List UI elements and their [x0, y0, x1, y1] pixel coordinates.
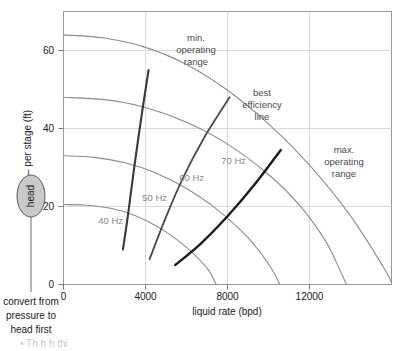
xtick-label-4000: 4000 — [134, 291, 157, 302]
chart-svg: 0 4000 8000 12000 0 20 40 60 liquid rate… — [0, 0, 402, 351]
xtick-label-8000: 8000 — [216, 291, 239, 302]
max-op-line-3: range — [332, 168, 356, 179]
convert-note: convert from pressure to head first — [3, 296, 59, 335]
freq-label-40-hz: 40 Hz — [98, 215, 123, 226]
y-tick-labels: 0 20 40 60 — [43, 45, 55, 290]
freq-label-60-hz: 60 Hz — [179, 172, 204, 183]
ytick-label-0: 0 — [48, 279, 54, 290]
x-axis-title: liquid rate (bpd) — [192, 306, 261, 317]
esp-pump-performance-chart: 0 4000 8000 12000 0 20 40 60 liquid rate… — [0, 0, 402, 351]
max-op-line-1: max. — [334, 144, 355, 155]
min-op-line-1: min. — [187, 32, 205, 43]
xtick-label-0: 0 — [61, 291, 67, 302]
footer-partial-text: • Th h h thi — [20, 338, 68, 349]
bel-line-1: best — [253, 87, 271, 98]
convert-note-line-3: head first — [10, 324, 51, 335]
x-tick-labels: 0 4000 8000 12000 — [61, 291, 324, 302]
freq-label-70-hz: 70 Hz — [221, 155, 246, 166]
xtick-label-12000: 12000 — [296, 291, 324, 302]
convert-note-line-1: convert from — [3, 296, 59, 307]
ytick-label-60: 60 — [43, 45, 55, 56]
max-op-line-2: operating — [324, 156, 364, 167]
bel-line-3: line — [255, 111, 270, 122]
min-op-line-3: range — [184, 56, 208, 67]
bel-line-2: efficiency — [242, 99, 282, 110]
head-pill-label: head — [25, 185, 36, 207]
convert-note-line-2: pressure to — [6, 310, 56, 321]
freq-label-50-hz: 50 Hz — [142, 192, 167, 203]
ytick-label-40: 40 — [43, 123, 55, 134]
min-op-line-2: operating — [176, 44, 216, 55]
